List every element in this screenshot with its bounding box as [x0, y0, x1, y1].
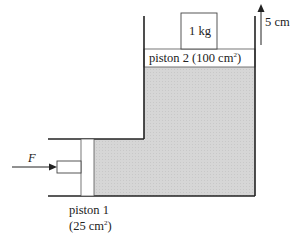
height-arrow-icon [258, 4, 265, 12]
piston1-label: piston 1 [69, 204, 109, 217]
height-label: 5 cm [265, 16, 290, 29]
hydraulic-diagram [0, 0, 296, 239]
fluid [94, 67, 255, 196]
piston-1 [81, 139, 94, 196]
mass-label: 1 kg [189, 25, 211, 38]
piston-rod [57, 161, 81, 173]
force-label: F [28, 152, 36, 165]
force-arrow-icon [49, 164, 57, 171]
piston2-label: piston 2 (100 cm2) [149, 52, 241, 65]
piston1-area: (25 cm2) [69, 220, 112, 233]
